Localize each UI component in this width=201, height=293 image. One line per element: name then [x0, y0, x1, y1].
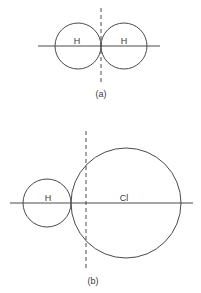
- atom-label-h-right: H: [121, 36, 128, 46]
- atom-label-h: H: [45, 193, 52, 203]
- figure-b: H Cl (b): [10, 131, 193, 286]
- atom-label-cl: Cl: [120, 193, 129, 203]
- diagram-canvas: H H (a) H Cl (b): [0, 0, 201, 293]
- caption-a: (a): [96, 89, 107, 99]
- atom-label-h-left: H: [74, 36, 81, 46]
- figure-a: H H (a): [38, 8, 160, 99]
- caption-b: (b): [88, 276, 99, 286]
